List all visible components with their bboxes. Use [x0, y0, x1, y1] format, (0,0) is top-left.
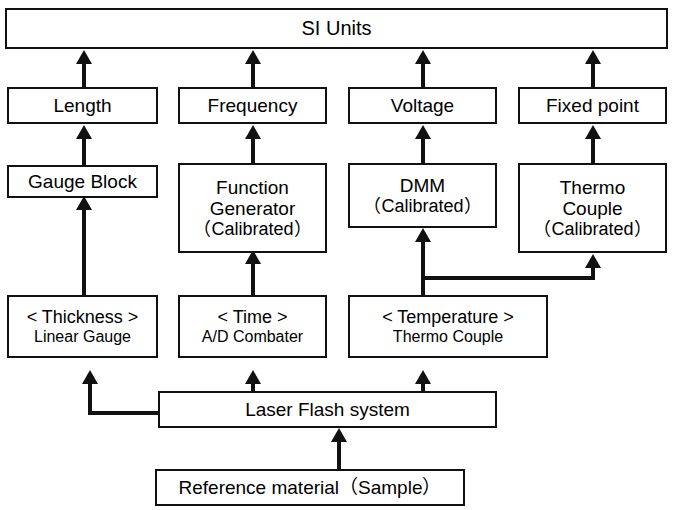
node-function-generator-line-2: （Calibrated）	[193, 219, 311, 239]
node-laser-flash-system-line-0: Laser Flash system	[245, 399, 410, 420]
node-function-generator-line-0: Function	[216, 177, 289, 198]
arrowhead-laserflash-to-time	[245, 370, 261, 384]
arrowhead-laserflash-to-thickness	[82, 370, 98, 384]
node-function-generator[interactable]: Function Generator （Calibrated）	[178, 163, 327, 253]
arrowhead-length-to-si-units	[76, 50, 92, 64]
connector-temperature-to-dmm	[421, 240, 425, 300]
node-gauge-block[interactable]: Gauge Block	[7, 165, 158, 198]
node-time-line-0: < Time >	[217, 307, 287, 327]
arrowhead-thermocouplecal-to-fixedpoint	[585, 125, 601, 139]
node-thermo-couple-calibrated-line-2: （Calibrated）	[533, 219, 651, 239]
node-reference-material-line-0: Reference material（Sample）	[179, 477, 442, 498]
arrowhead-gaugeblock-to-length	[76, 125, 92, 139]
arrowhead-referencematerial-to-laserflash	[331, 428, 347, 442]
arrowhead-laserflash-to-temperature	[415, 370, 431, 384]
connector-laserflash-to-thickness-horizontal	[88, 411, 162, 415]
node-dmm-line-1: （Calibrated）	[363, 196, 481, 216]
node-temperature[interactable]: < Temperature > Thermo Couple	[348, 295, 548, 358]
connector-gaugeblock-to-length	[82, 137, 86, 167]
node-si-units[interactable]: SI Units	[5, 8, 668, 49]
node-thickness-line-1: Linear Gauge	[34, 328, 131, 346]
node-temperature-line-1: Thermo Couple	[393, 328, 503, 346]
node-thermo-couple-calibrated-line-0: Thermo	[560, 177, 625, 198]
connector-laserflash-to-thickness-vertical	[88, 382, 92, 413]
arrowhead-temperature-to-thermocouplecal	[585, 254, 601, 268]
node-time-line-1: A/D Combater	[202, 328, 303, 346]
node-length[interactable]: Length	[7, 87, 158, 124]
node-function-generator-line-1: Generator	[210, 198, 296, 219]
connector-temperature-to-thermocouplecal-horizontal	[421, 276, 595, 280]
node-dmm-line-0: DMM	[400, 175, 445, 196]
node-laser-flash-system[interactable]: Laser Flash system	[158, 391, 497, 428]
node-frequency[interactable]: Frequency	[178, 87, 327, 124]
arrowhead-frequency-to-si-units	[245, 50, 261, 64]
node-thickness-line-0: < Thickness >	[27, 307, 139, 327]
arrowhead-voltage-to-si-units	[415, 50, 431, 64]
connector-temperature-to-thermocouplecal-vertical	[591, 266, 595, 280]
node-reference-material[interactable]: Reference material（Sample）	[155, 469, 465, 506]
connector-referencematerial-to-laserflash	[337, 440, 341, 470]
node-si-units-line-0: SI Units	[301, 17, 371, 39]
node-time[interactable]: < Time > A/D Combater	[178, 295, 327, 358]
node-length-line-0: Length	[53, 95, 111, 116]
arrowhead-fixedpoint-to-si-units	[585, 50, 601, 64]
traceability-diagram: SI Units Length Frequency Voltage Fixed …	[0, 0, 673, 510]
node-thermo-couple-calibrated[interactable]: Thermo Couple （Calibrated）	[518, 163, 667, 253]
arrowhead-functiongenerator-to-frequency	[245, 125, 261, 139]
node-gauge-block-line-0: Gauge Block	[28, 171, 137, 192]
node-thermo-couple-calibrated-line-1: Couple	[562, 198, 622, 219]
node-dmm[interactable]: DMM （Calibrated）	[348, 163, 497, 228]
arrowhead-thickness-to-gaugeblock	[76, 196, 92, 210]
node-fixed-point-line-0: Fixed point	[546, 95, 639, 116]
arrowhead-temperature-to-dmm	[415, 228, 431, 242]
connector-thickness-to-gaugeblock	[82, 208, 86, 300]
node-fixed-point[interactable]: Fixed point	[518, 87, 667, 124]
node-frequency-line-0: Frequency	[208, 95, 298, 116]
node-voltage-line-0: Voltage	[391, 95, 454, 116]
node-voltage[interactable]: Voltage	[348, 87, 497, 124]
node-temperature-line-0: < Temperature >	[382, 307, 514, 327]
node-thickness[interactable]: < Thickness > Linear Gauge	[7, 295, 158, 358]
arrowhead-dmm-to-voltage	[415, 125, 431, 139]
